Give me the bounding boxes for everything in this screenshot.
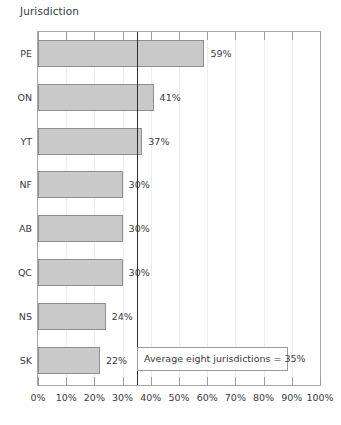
category-label-pe: PE <box>2 40 32 67</box>
x-axis-tick-label: 10% <box>56 392 77 403</box>
bar-ab <box>38 215 123 242</box>
category-label-nf: NF <box>2 171 32 198</box>
x-axis-tick-label: 20% <box>84 392 105 403</box>
chart-title: Jurisdiction <box>20 5 79 17</box>
x-axis-tick <box>207 32 208 40</box>
x-axis-tick <box>123 377 124 385</box>
bar-chart: Jurisdiction Average eight jurisdictions… <box>0 0 341 425</box>
category-label-ab: AB <box>2 215 32 242</box>
x-axis-tick-label: 30% <box>112 392 133 403</box>
x-axis-tick <box>264 377 265 385</box>
bar-nf <box>38 171 123 198</box>
x-axis-tick <box>235 32 236 40</box>
bar-ns <box>38 303 106 330</box>
bar-value-label-nf: 30% <box>129 171 150 198</box>
gridline <box>264 32 265 385</box>
bar-value-label-on: 41% <box>160 84 181 111</box>
x-axis-tick <box>66 32 67 40</box>
x-axis-tick-label: 50% <box>168 392 189 403</box>
x-axis-tick-label: 60% <box>197 392 218 403</box>
x-axis-tick <box>264 32 265 40</box>
bar-sk <box>38 347 100 374</box>
x-axis-tick <box>320 377 321 385</box>
x-axis-tick <box>179 32 180 40</box>
x-axis-tick <box>320 32 321 40</box>
x-axis-tick <box>94 32 95 40</box>
gridline <box>235 32 236 385</box>
x-axis-tick <box>292 32 293 40</box>
x-axis-tick <box>151 377 152 385</box>
bar-qc <box>38 259 123 286</box>
category-label-yt: YT <box>2 128 32 155</box>
bar-pe <box>38 40 204 67</box>
bar-value-label-qc: 30% <box>129 259 150 286</box>
category-label-qc: QC <box>2 259 32 286</box>
x-axis-tick <box>235 377 236 385</box>
average-reference-line <box>137 32 139 385</box>
bar-value-label-yt: 37% <box>148 128 169 155</box>
average-annotation-box: Average eight jurisdictions = 35% <box>137 347 288 371</box>
x-axis-tick <box>207 377 208 385</box>
x-axis-tick-label: 40% <box>140 392 161 403</box>
bar-value-label-sk: 22% <box>106 347 127 374</box>
x-axis-tick <box>94 377 95 385</box>
bar-value-label-pe: 59% <box>210 40 231 67</box>
x-axis-tick-label: 80% <box>253 392 274 403</box>
bar-value-label-ns: 24% <box>112 303 133 330</box>
x-axis-tick <box>179 377 180 385</box>
x-axis-tick <box>123 32 124 40</box>
x-axis-tick <box>66 377 67 385</box>
gridline <box>292 32 293 385</box>
bar-yt <box>38 128 142 155</box>
category-label-sk: SK <box>2 347 32 374</box>
bar-value-label-ab: 30% <box>129 215 150 242</box>
x-axis-tick-label: 90% <box>281 392 302 403</box>
category-label-on: ON <box>2 84 32 111</box>
x-axis-tick-label: 70% <box>225 392 246 403</box>
average-annotation-label: Average eight jurisdictions = 35% <box>144 348 306 370</box>
x-axis-tick <box>292 377 293 385</box>
x-axis-tick <box>38 377 39 385</box>
gridline <box>207 32 208 385</box>
x-axis-tick <box>151 32 152 40</box>
x-axis-tick-label: 0% <box>30 392 45 403</box>
x-axis-tick-label: 100% <box>306 392 333 403</box>
x-axis-tick <box>38 32 39 40</box>
category-label-ns: NS <box>2 303 32 330</box>
